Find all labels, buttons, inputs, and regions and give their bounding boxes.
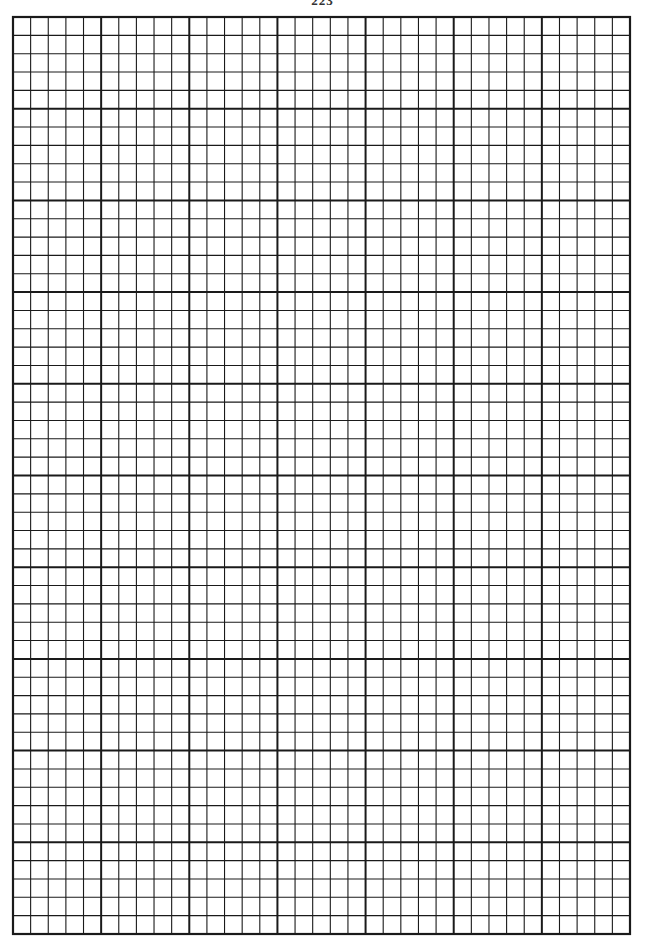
graph-paper-grid [0, 0, 645, 948]
grid-lines [0, 0, 645, 948]
